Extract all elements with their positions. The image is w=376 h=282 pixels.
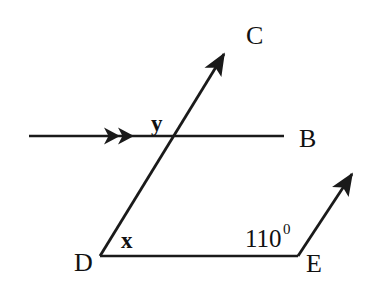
geometry-figure: C B D E y x 110 0 xyxy=(0,0,376,282)
label-point-c: C xyxy=(246,21,263,50)
label-angle-110: 110 0 xyxy=(245,221,291,252)
label-angle-x: x xyxy=(121,228,133,253)
geometry-diagram: C B D E y x 110 0 xyxy=(0,0,376,282)
label-point-e: E xyxy=(306,249,322,278)
angle-value-number: 110 xyxy=(245,225,282,252)
ray-from-e xyxy=(298,174,352,256)
label-angle-y: y xyxy=(151,111,163,136)
ray-d-to-c xyxy=(100,54,224,256)
label-point-b: B xyxy=(299,124,316,153)
double-chevron-marker-icon xyxy=(104,128,134,145)
label-point-d: D xyxy=(74,248,93,277)
angle-value-degree-superscript: 0 xyxy=(283,221,291,237)
